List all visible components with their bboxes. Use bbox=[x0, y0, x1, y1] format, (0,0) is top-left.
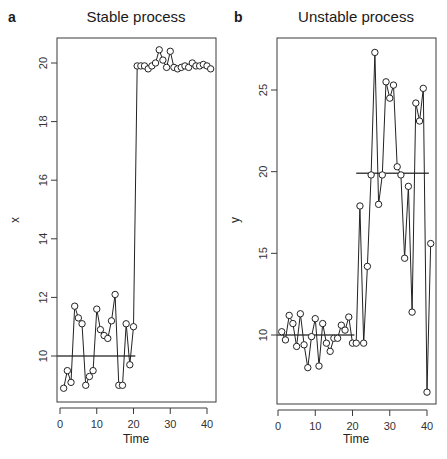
panel-b-y-axis: 10152025 bbox=[257, 84, 277, 341]
data-point bbox=[323, 340, 329, 346]
data-point bbox=[301, 342, 307, 348]
panel-letter-a: a bbox=[8, 9, 16, 25]
data-point bbox=[152, 60, 158, 66]
panel-b-unstable-process: b Unstable process 10152025 010203040 Ti… bbox=[228, 8, 436, 446]
y-tick-label: 25 bbox=[257, 84, 269, 96]
panel-b-x-axis: 010203040 bbox=[275, 410, 433, 432]
x-tick-label: 40 bbox=[201, 418, 213, 430]
data-point bbox=[290, 320, 296, 326]
data-point bbox=[97, 326, 103, 332]
series-line bbox=[64, 50, 211, 388]
panel-a-x-axis-label: Time bbox=[123, 432, 150, 446]
data-point bbox=[305, 364, 311, 370]
data-point bbox=[83, 382, 89, 388]
data-point bbox=[312, 315, 318, 321]
data-point bbox=[346, 314, 352, 320]
data-point bbox=[75, 315, 81, 321]
x-tick-label: 0 bbox=[275, 420, 281, 432]
data-point bbox=[413, 100, 419, 106]
data-point bbox=[86, 373, 92, 379]
y-tick-label: 15 bbox=[257, 247, 269, 259]
data-point bbox=[401, 255, 407, 261]
data-point bbox=[163, 64, 169, 70]
x-tick-label: 20 bbox=[127, 418, 139, 430]
data-point bbox=[372, 49, 378, 55]
data-point bbox=[207, 66, 213, 72]
data-point bbox=[90, 367, 96, 373]
data-point bbox=[387, 95, 393, 101]
data-point bbox=[279, 329, 285, 335]
data-point bbox=[383, 79, 389, 85]
data-point bbox=[405, 183, 411, 189]
data-point bbox=[123, 321, 129, 327]
data-point bbox=[94, 306, 100, 312]
data-point bbox=[297, 311, 303, 317]
data-point bbox=[334, 335, 340, 341]
data-point bbox=[424, 389, 430, 395]
data-point bbox=[379, 172, 385, 178]
panel-a-title: Stable process bbox=[86, 8, 185, 25]
data-point bbox=[167, 48, 173, 54]
panel-a-series bbox=[60, 47, 213, 392]
data-point bbox=[64, 367, 70, 373]
data-point bbox=[375, 201, 381, 207]
data-point bbox=[428, 240, 434, 246]
data-point bbox=[127, 362, 133, 368]
x-tick-label: 40 bbox=[421, 420, 433, 432]
data-point bbox=[320, 320, 326, 326]
x-tick-label: 10 bbox=[309, 420, 321, 432]
data-point bbox=[390, 82, 396, 88]
panel-b-plot-area bbox=[277, 38, 436, 404]
data-point bbox=[327, 348, 333, 354]
y-tick-label: 10 bbox=[257, 329, 269, 341]
panel-b-y-axis-label: y bbox=[228, 217, 242, 223]
data-point bbox=[353, 340, 359, 346]
data-point bbox=[308, 333, 314, 339]
data-point bbox=[72, 303, 78, 309]
data-point bbox=[368, 172, 374, 178]
data-point bbox=[360, 340, 366, 346]
y-tick-label: 16 bbox=[37, 174, 49, 186]
x-tick-label: 10 bbox=[91, 418, 103, 430]
data-point bbox=[130, 324, 136, 330]
data-point bbox=[112, 291, 118, 297]
y-tick-label: 20 bbox=[37, 57, 49, 69]
data-point bbox=[316, 363, 322, 369]
data-point bbox=[409, 309, 415, 315]
data-point bbox=[293, 343, 299, 349]
data-point bbox=[68, 379, 74, 385]
y-tick-label: 12 bbox=[37, 291, 49, 303]
y-tick-label: 20 bbox=[257, 166, 269, 178]
y-tick-label: 14 bbox=[37, 233, 49, 245]
figure: a Stable process 101214161820 010203040 … bbox=[0, 0, 447, 459]
x-tick-label: 20 bbox=[346, 420, 358, 432]
panel-a-y-axis: 101214161820 bbox=[37, 57, 57, 362]
y-tick-label: 18 bbox=[37, 115, 49, 127]
data-point bbox=[364, 263, 370, 269]
data-point bbox=[156, 47, 162, 53]
panel-a-y-axis-label: x bbox=[8, 217, 22, 223]
data-point bbox=[398, 172, 404, 178]
data-point bbox=[105, 335, 111, 341]
data-point bbox=[282, 337, 288, 343]
data-point bbox=[357, 203, 363, 209]
data-point bbox=[119, 382, 125, 388]
data-point bbox=[342, 327, 348, 333]
data-point bbox=[420, 85, 426, 91]
panel-b-title: Unstable process bbox=[298, 8, 414, 25]
x-tick-label: 0 bbox=[57, 418, 63, 430]
data-point bbox=[108, 318, 114, 324]
data-point bbox=[286, 312, 292, 318]
y-tick-label: 10 bbox=[37, 350, 49, 362]
x-tick-label: 30 bbox=[384, 420, 396, 432]
data-point bbox=[160, 57, 166, 63]
x-tick-label: 30 bbox=[164, 418, 176, 430]
panel-letter-b: b bbox=[234, 9, 243, 25]
panel-a-stable-process: a Stable process 101214161820 010203040 … bbox=[8, 8, 216, 446]
panel-a-x-axis: 010203040 bbox=[57, 408, 213, 430]
panel-b-series bbox=[279, 49, 434, 395]
data-point bbox=[60, 385, 66, 391]
data-point bbox=[416, 118, 422, 124]
data-point bbox=[79, 321, 85, 327]
data-point bbox=[394, 164, 400, 170]
